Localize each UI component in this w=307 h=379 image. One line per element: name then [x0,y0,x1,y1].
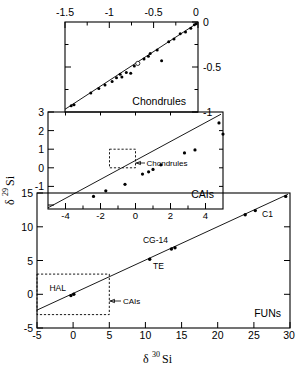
axis-title-y: δ 29 Si [1,175,17,205]
panel-cais: -4 -2 0 2 4 3 2 1 0 -1 [35,106,225,221]
data-point [89,92,92,95]
chondrules-xtick-label-3: 0 [193,6,199,18]
cais-inset-label: Chondrules [147,159,188,168]
data-point [160,59,163,62]
cais-ytick-label-2: 1 [38,143,44,155]
data-point [244,213,247,216]
chondrules-xtick-label-2: -0.5 [145,6,163,18]
funs-ytick-label-1: 10 [21,221,33,233]
cais-xtick-label-2: 0 [133,210,138,221]
data-point [119,73,122,76]
chondrules-xtick-label-1: -1 [105,6,114,18]
funs-xtick-label-7: 30 [283,329,295,341]
funs-xtick-label-3: 10 [140,329,152,341]
data-point [147,170,150,173]
x-axis-delta-symbol: δ [143,352,149,366]
funs-xtick-label-2: 5 [106,329,112,341]
funs-fit-line [37,194,288,310]
chondrules-ytick-label-0: 0 [203,16,209,28]
data-point [72,293,75,296]
data-point [69,294,72,297]
data-point [217,121,220,124]
x-axis-mass-number: 30 [152,350,160,359]
data-point [183,151,186,154]
point-label-hal: HAL [49,283,66,293]
data-point [92,195,95,198]
data-point [104,189,107,192]
point-label-c1: C1 [262,209,273,219]
funs-inset-label: CAIs [123,297,140,306]
funs-xtick-label-1: 0 [70,329,76,341]
data-point [111,80,114,83]
cais-ytick-label-4: -1 [35,180,44,192]
data-point [73,103,76,106]
data-point [221,133,224,136]
axis-title-x: δ 30 Si [143,350,173,366]
data-point [184,30,187,33]
funs-ytick-label-0: 15 [21,187,33,199]
data-point [159,163,162,166]
data-point [147,55,150,58]
funs-ytick-label-2: 5 [27,255,33,267]
chondrules-xtick-label-0: -1.5 [56,6,74,18]
data-point [97,87,100,90]
data-point [115,76,118,79]
funs-xtick-label-5: 20 [212,329,224,341]
cais-xtick-label-0: -4 [61,210,69,221]
data-point [284,195,287,198]
data-point [193,148,196,151]
figure-container: -1.5 -1 -0.5 0 0 -0.5 -1 [0,0,307,379]
y-axis-element: Si [3,175,17,186]
funs-x-axis-ticks [37,322,290,328]
chondrules-ytick-label-1: -0.5 [203,61,221,73]
data-point [254,209,257,212]
data-point-open [136,61,140,65]
cais-ytick-label-3: 0 [38,162,44,174]
panel-label-chondrules: Chondrules [132,95,186,107]
data-point [143,57,146,60]
funs-xtick-label-0: -5 [32,329,41,341]
data-point [141,173,144,176]
data-point [129,72,132,75]
chondrules-x-axis-ticks [65,22,198,28]
cais-xtick-label-4: 4 [203,210,208,221]
data-point [173,246,176,249]
panel-chondrules: -1.5 -1 -0.5 0 0 -0.5 -1 [56,6,221,118]
data-point [156,48,159,51]
cais-xtick-label-3: 2 [168,210,173,221]
data-point [189,27,192,30]
point-label-te: TE [153,261,164,271]
funs-ytick-label-3: 0 [27,288,33,300]
data-point [120,75,123,78]
y-axis-delta-symbol: δ [3,199,17,205]
data-point [167,40,170,43]
data-point [170,247,173,250]
data-point [70,104,73,107]
cais-inset-box-chondrules [110,149,136,168]
data-point [173,38,176,41]
cais-xtick-label-1: -2 [96,210,104,221]
data-point [195,22,198,25]
cais-ytick-label-0: 3 [38,106,44,118]
data-point [133,65,136,68]
data-point [151,168,154,171]
point-label-cg14: CG-14 [143,235,168,245]
isotope-figure: -1.5 -1 -0.5 0 0 -0.5 -1 [0,0,307,379]
cais-ytick-label-1: 2 [38,125,44,137]
funs-xtick-label-6: 25 [248,329,260,341]
data-point [104,84,107,87]
x-axis-element: Si [162,352,173,366]
data-point [123,183,126,186]
data-point [148,258,151,261]
panel-label-funs: FUNs [254,307,281,319]
panel-label-cais: CAIs [191,188,214,200]
funs-ytick-label-4: -5 [24,322,33,334]
data-point [179,32,182,35]
data-point [149,52,152,55]
data-point [125,71,128,74]
y-axis-mass-number: 29 [1,188,10,196]
funs-xtick-label-4: 15 [176,329,188,341]
